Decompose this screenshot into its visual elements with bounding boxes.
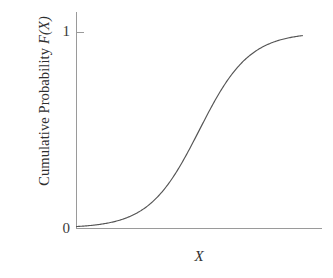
y-axis-label-variable: F(X): [36, 16, 53, 48]
chart-figure: 1 0 Cumulative Probability F(X) X: [0, 0, 333, 278]
y-axis-label: Cumulative Probability F(X): [36, 0, 276, 240]
y-axis-label-text: Cumulative Probability: [36, 48, 53, 186]
x-axis-label: X: [76, 248, 322, 265]
